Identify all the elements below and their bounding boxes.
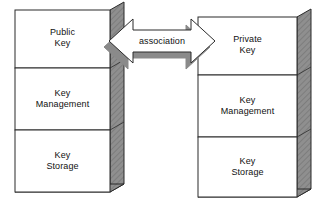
public-key-stack-graphic[interactable] <box>15 2 124 192</box>
association-arrow-label: association <box>124 36 200 46</box>
right-stack-right-face <box>297 9 311 197</box>
left-cell-3-face[interactable] <box>15 130 110 192</box>
right-cell-2-face[interactable] <box>198 75 297 137</box>
diagram-canvas: Public Key Key Management Key Storage Pr… <box>0 0 321 218</box>
right-cell-1-face[interactable] <box>198 17 297 75</box>
diagram-graphics <box>0 0 321 218</box>
left-cell-2-face[interactable] <box>15 68 110 130</box>
right-cell-3-face[interactable] <box>198 137 297 197</box>
left-cell-1-face[interactable] <box>15 10 110 68</box>
private-key-stack-graphic[interactable] <box>198 9 311 197</box>
